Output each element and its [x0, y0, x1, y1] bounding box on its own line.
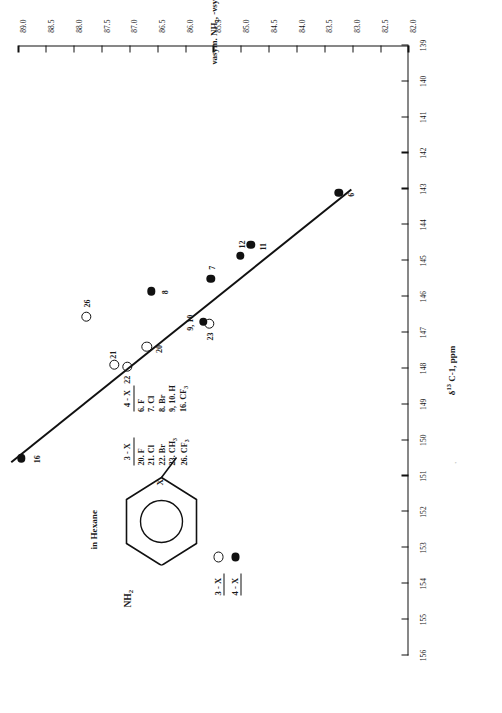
y-tick-label: 84.5	[269, 19, 278, 32]
x-axis-line	[407, 45, 408, 655]
y-tick-label: 88.5	[46, 19, 55, 32]
x-tick-label: 147	[418, 326, 427, 337]
legend-table-column: 4 - X6. F7. Cl8. Br9, 10. H16. CF3	[122, 385, 191, 412]
x-tick-label: 153	[418, 542, 427, 553]
marker-key-row: 4 - X	[229, 546, 241, 595]
y-tick-label: 83.5	[325, 19, 334, 32]
x-tick	[401, 510, 408, 511]
legend-table-item: 8. Br	[157, 385, 168, 412]
data-point-label: 7	[208, 265, 217, 269]
data-point-label: 16	[32, 455, 41, 463]
x-tick-label: 144	[418, 219, 427, 230]
x-tick-label: 148	[418, 362, 427, 373]
data-point	[146, 287, 154, 295]
x-tick	[401, 116, 408, 117]
legend-table-item: 9, 10. H	[167, 385, 178, 412]
y-tick	[101, 45, 102, 52]
x-tick-label: 149	[418, 398, 427, 409]
x-tick	[401, 618, 408, 619]
x-tick	[401, 367, 408, 368]
y-tick	[45, 45, 46, 52]
marker-key-row: 3 - X	[212, 546, 224, 595]
x-tick-label: 151	[418, 470, 427, 481]
x-tick	[401, 403, 408, 404]
data-point	[81, 311, 91, 321]
y-tick-label: 82.5	[381, 19, 390, 32]
y-tick	[380, 45, 381, 52]
x-tick	[401, 582, 408, 583]
benzene-ring-icon	[120, 455, 202, 565]
data-point-label: 8	[160, 290, 169, 294]
y-tick	[407, 45, 408, 52]
x-axis-title: δ13 C-1, ppm	[444, 345, 456, 394]
y-title-part2: , -νsym. NH	[208, 0, 218, 19]
y-tick-label: 85.0	[241, 19, 250, 32]
y-axis-title: νasym. NH2, -νsym. NH2, cm-1	[206, 0, 220, 64]
x-tick-label: 141	[418, 111, 427, 122]
x-tick-label: 152	[418, 506, 427, 517]
y-tick-label: 84.0	[297, 19, 306, 32]
x-tick	[401, 295, 408, 296]
y-tick-label: 89.0	[19, 19, 28, 32]
x-tick	[401, 439, 408, 440]
y-tick	[185, 45, 186, 52]
marker-key-label: 3 - X	[212, 573, 224, 595]
x-tick-label: 150	[418, 434, 427, 445]
y-tick-label: 82.0	[409, 19, 418, 32]
x-tick	[401, 80, 408, 81]
marker-key: 3 - X4 - X	[212, 546, 246, 595]
x-tick-label: 154	[418, 578, 427, 589]
data-point-label: 23	[205, 332, 214, 340]
y-tick-label: 86.5	[158, 19, 167, 32]
x-title-delta: δ	[446, 390, 456, 395]
data-point-label: 26	[82, 299, 91, 307]
solvent-label: in Hexane	[88, 509, 98, 549]
y-title-part1: νasym. NH	[208, 22, 218, 64]
legend-table-item: 6. F	[136, 385, 147, 412]
data-point-label: 11	[259, 242, 268, 250]
data-point-label: 12	[237, 240, 246, 248]
x-tick-label: 146	[418, 290, 427, 301]
legend-table-item: 16. CF3	[178, 385, 190, 412]
data-point	[236, 251, 244, 259]
x-tick	[401, 546, 408, 547]
x-tick-label: 142	[418, 147, 427, 158]
x-tick	[401, 331, 408, 332]
x-title-superscript: 13	[444, 384, 451, 390]
data-point-label: 22	[122, 375, 131, 383]
x-tick	[401, 474, 408, 475]
y-tick	[73, 45, 74, 52]
x-tick-label: 139	[418, 39, 427, 50]
y-tick	[296, 45, 297, 52]
x-tick	[401, 151, 408, 152]
legend-table-item: 7. Cl	[146, 385, 157, 412]
y-tick	[157, 45, 158, 52]
x-tick-label: 140	[418, 75, 427, 86]
x-tick	[401, 259, 408, 260]
data-point	[206, 274, 214, 282]
x-tick	[401, 187, 408, 188]
y-tick	[17, 45, 18, 52]
x-tick-label: 145	[418, 255, 427, 266]
y-tick	[324, 45, 325, 52]
y-tick-label: 88.0	[74, 19, 83, 32]
x-tick	[401, 223, 408, 224]
nh2-label: NH2	[122, 589, 134, 607]
data-point	[109, 359, 119, 369]
marker-key-label: 4 - X	[229, 573, 241, 595]
y-tick-label: 87.5	[102, 19, 111, 32]
y-tick	[240, 45, 241, 52]
x-tick-label: 155	[418, 613, 427, 624]
x-title-text: C-1, ppm	[446, 345, 456, 383]
y-tick-label: 83.0	[353, 19, 362, 32]
y-tick	[268, 45, 269, 52]
data-point	[199, 317, 207, 325]
y-tick	[352, 45, 353, 52]
chemical-structure: in Hexane NH2 X	[86, 455, 204, 605]
y-tick	[129, 45, 130, 52]
substituent-legend-tables: 3 - X20. F21. Cl22. Br23. CH326. CF34 - …	[122, 385, 191, 465]
x-tick-label: 156	[418, 649, 427, 660]
legend-table-header: 4 - X	[122, 385, 134, 412]
rotated-figure: 1561551541531521511501491481471461451441…	[0, 0, 502, 713]
open-circle-icon	[213, 546, 223, 566]
